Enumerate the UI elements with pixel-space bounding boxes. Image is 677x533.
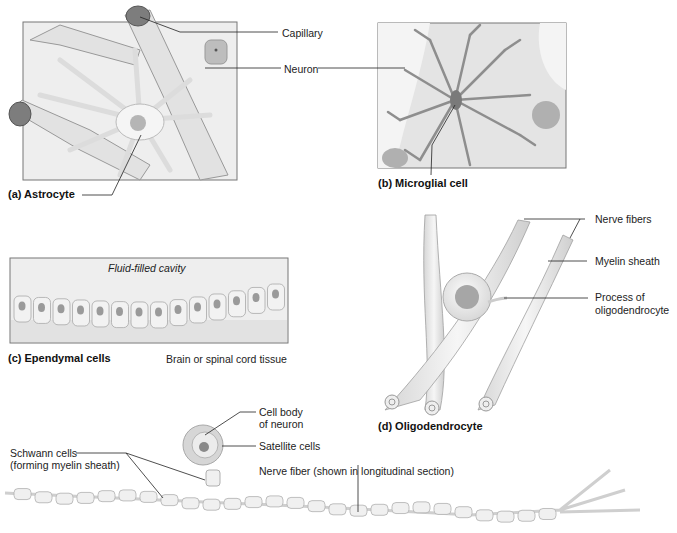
label-neuron: Neuron <box>284 63 318 75</box>
label-satellite: Satellite cells <box>259 440 320 452</box>
label-fluid-cavity: Fluid-filled cavity <box>108 262 186 274</box>
caption-microglia: (b) Microglial cell <box>378 177 468 189</box>
panel-microglia <box>318 23 566 175</box>
label-myelin-sheath: Myelin sheath <box>595 255 660 267</box>
label-capillary: Capillary <box>282 27 323 39</box>
caption-astrocyte: (a) Astrocyte <box>8 188 75 200</box>
panel-astrocyte <box>9 6 281 195</box>
label-schwann-1: Schwann cells <box>10 447 77 459</box>
illustration <box>0 0 677 533</box>
caption-oligodendrocyte: (d) Oligodendrocyte <box>378 420 483 432</box>
label-nerve-fibers: Nerve fibers <box>595 213 652 225</box>
label-process-1: Process of <box>595 291 645 303</box>
label-nerve-fiber-long: Nerve fiber (shown in longitudinal secti… <box>259 465 454 477</box>
label-cell-body-2: of neuron <box>259 418 303 430</box>
label-schwann-2: (forming myelin sheath) <box>10 459 120 471</box>
panel-oligodendrocyte <box>385 215 588 415</box>
label-cell-body-1: Cell body <box>259 406 303 418</box>
neuroglia-figure: Capillary Neuron (a) Astrocyte (b) Micro… <box>0 0 677 533</box>
label-brain-tissue: Brain or spinal cord tissue <box>166 353 287 365</box>
caption-ependymal: (c) Ependymal cells <box>8 352 111 364</box>
label-process-2: oligodendrocyte <box>595 304 669 316</box>
